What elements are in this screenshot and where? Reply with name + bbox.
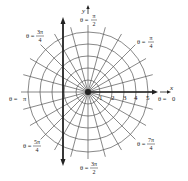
angle-label-denominator: 4	[150, 43, 153, 49]
angle-label-theta-0: θ = 0	[158, 95, 175, 102]
polar-axis-arrowhead	[152, 90, 158, 95]
grid-spoke	[41, 45, 88, 92]
origin-point	[85, 89, 91, 95]
grid-spoke	[23, 92, 88, 109]
grid-spoke	[88, 27, 105, 92]
angle-label-numerator: 3π	[37, 29, 43, 35]
grid-spoke	[88, 45, 135, 92]
grid-spoke	[88, 92, 122, 150]
grid-spoke	[23, 75, 88, 92]
grid-spoke	[30, 92, 88, 126]
grid-spoke	[88, 75, 153, 92]
y-axis-arrowhead	[86, 5, 89, 9]
angle-label-prefix: θ =	[158, 95, 167, 102]
angle-label-prefix: θ =	[137, 140, 146, 147]
grid-spoke	[88, 92, 105, 157]
angle-label-prefix: θ =	[80, 164, 89, 171]
angle-label-denominator: 4	[150, 145, 153, 151]
vertical-line-arrow-up	[61, 17, 66, 24]
angle-label-theta-3pi-4: θ = 3π 4	[26, 29, 44, 43]
angle-label-theta-7pi-4: θ = 7π 4	[137, 137, 155, 151]
grid-spoke	[55, 34, 89, 92]
angle-label-theta-5pi-4: θ = 5π 4	[23, 139, 41, 153]
angle-label-theta-3pi-2: θ = 3π 2	[80, 161, 98, 175]
angle-label-theta-pi: θ = π	[9, 95, 27, 102]
grid-spoke	[71, 92, 88, 157]
angle-label-numerator: π	[92, 13, 95, 19]
angle-label-numerator: 5π	[34, 139, 40, 145]
angle-label-prefix: θ =	[9, 95, 18, 102]
polar-grid-diagram: y x 1 2 3 4 5 θ = 0 θ = π θ = π 2 θ = π …	[0, 0, 188, 181]
grid-spoke	[30, 59, 88, 93]
angle-label-prefix: θ =	[137, 38, 146, 45]
grid-spoke	[88, 59, 146, 93]
angle-label-numerator: 7π	[148, 137, 154, 143]
angle-label-denominator: 2	[93, 169, 96, 175]
tick-label: 4	[134, 94, 138, 102]
tick-label: 5	[146, 94, 150, 102]
grid-spoke	[71, 27, 88, 92]
angle-label-prefix: θ =	[80, 16, 89, 23]
grid-spoke	[41, 92, 88, 139]
angle-label-theta-pi-2: θ = π 2	[80, 13, 97, 27]
angle-label-value: π	[23, 95, 27, 102]
angle-label-prefix: θ =	[26, 32, 35, 39]
grid-spoke	[88, 34, 122, 92]
vertical-line-arrow-down	[61, 159, 66, 166]
radial-tick-labels: 1 2 3 4 5	[99, 94, 150, 102]
angle-label-value: 0	[172, 95, 175, 102]
angle-label-numerator: π	[149, 35, 152, 41]
angle-label-theta-pi-4: θ = π 4	[137, 35, 154, 49]
angle-label-denominator: 2	[93, 21, 96, 27]
x-axis-label: x	[169, 84, 174, 92]
tick-label: 3	[123, 94, 127, 102]
grid-spoke	[88, 92, 153, 109]
angle-label-prefix: θ =	[23, 142, 32, 149]
angle-label-denominator: 4	[39, 37, 42, 43]
angle-label-numerator: 3π	[91, 161, 97, 167]
angle-label-denominator: 4	[36, 147, 39, 153]
tick-label: 2	[111, 94, 115, 102]
tick-label: 1	[99, 94, 103, 102]
y-axis-label: y	[81, 7, 86, 15]
grid-spoke	[55, 92, 89, 150]
